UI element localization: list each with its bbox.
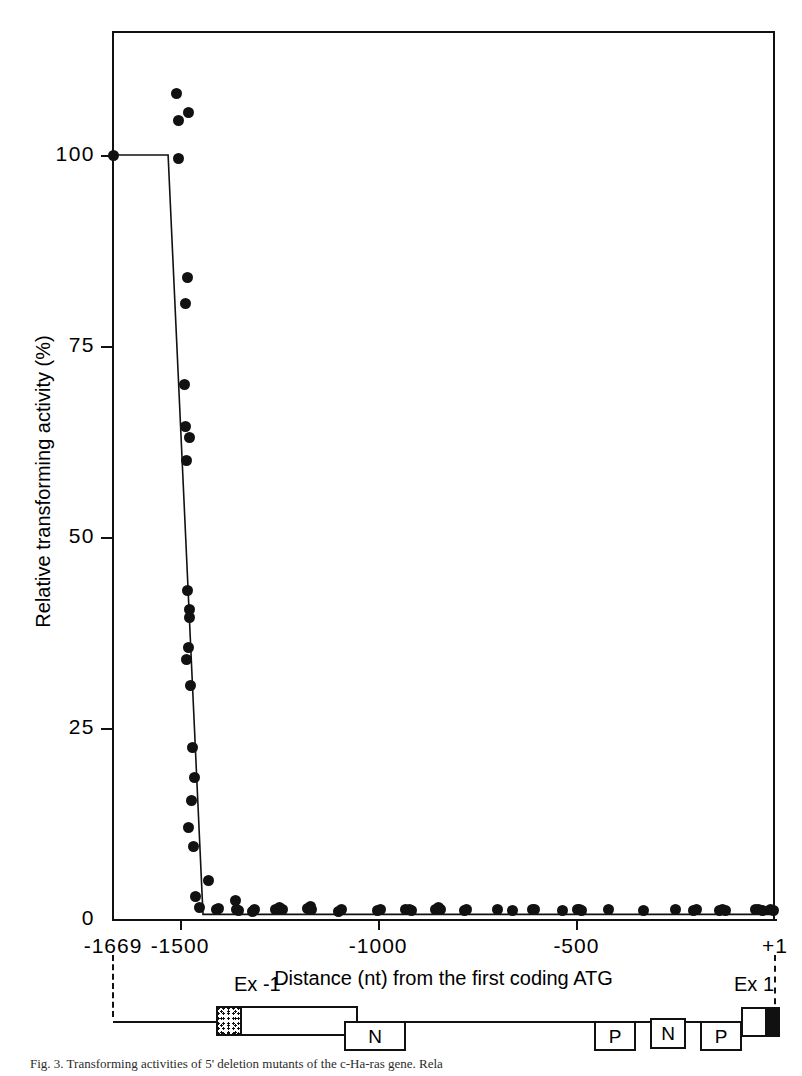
x-tick-label: +1 — [715, 934, 802, 958]
element-n-2-box: N — [650, 1018, 686, 1049]
data-point — [183, 822, 194, 833]
data-point — [181, 654, 192, 665]
data-point — [768, 905, 779, 916]
element-n-2-label: N — [661, 1024, 675, 1043]
element-p-2-box: P — [700, 1021, 742, 1051]
dashed-connector-right — [774, 955, 776, 1015]
data-point — [184, 604, 195, 615]
figure-panel: Relative transforming activity (%) Dista… — [0, 0, 802, 1076]
data-point — [173, 115, 184, 126]
x-tick-mark — [576, 920, 578, 930]
data-point — [180, 421, 191, 432]
data-point — [179, 379, 190, 390]
element-p-1-label: P — [609, 1027, 622, 1046]
element-p-2-label: P — [715, 1027, 728, 1046]
data-point — [182, 272, 193, 283]
x-axis-title: Distance (nt) from the first coding ATG — [112, 967, 775, 990]
element-n-1-label: N — [368, 1027, 382, 1046]
data-point — [108, 150, 119, 161]
exon-minus-1-label: Ex -1 — [234, 973, 281, 996]
exon-1-label: Ex 1 — [734, 973, 774, 996]
data-point — [194, 902, 205, 913]
dashed-connector-left — [112, 955, 114, 1017]
data-point — [187, 742, 198, 753]
data-point — [492, 904, 503, 915]
element-p-1-box: P — [594, 1021, 636, 1051]
y-tick-label: 25 — [0, 715, 109, 739]
x-tick-mark — [180, 920, 182, 930]
y-tick-label: 0 — [0, 906, 109, 930]
data-point — [375, 904, 386, 915]
data-point — [720, 905, 731, 916]
data-point — [189, 772, 200, 783]
exon-1-coding-block — [766, 1007, 780, 1037]
data-point — [691, 904, 702, 915]
y-tick-label: 50 — [0, 524, 109, 548]
data-point — [336, 904, 347, 915]
element-n-1-box: N — [344, 1021, 406, 1051]
x-tick-label: -1500 — [120, 934, 240, 958]
exon-1-box — [741, 1007, 767, 1037]
x-axis-line — [112, 919, 777, 921]
y-axis-title: Relative transforming activity (%) — [32, 317, 55, 647]
x-tick-label: -1000 — [318, 934, 438, 958]
data-point — [190, 891, 201, 902]
exon-minus-1-stipple-block — [216, 1006, 242, 1036]
figure-caption: Fig. 3. Transforming activities of 5' de… — [0, 1056, 802, 1072]
data-point — [184, 432, 195, 443]
data-point — [188, 841, 199, 852]
data-point — [603, 904, 614, 915]
gene-map: Ex -1 N P N P Ex 1 — [0, 995, 802, 1055]
x-tick-mark — [378, 920, 380, 930]
exon-minus-1-box — [240, 1006, 358, 1036]
y-tick-label: 75 — [0, 333, 109, 357]
plot-frame — [112, 31, 775, 920]
x-tick-label: -500 — [516, 934, 636, 958]
data-point — [406, 905, 417, 916]
gene-backbone-left — [113, 1021, 218, 1023]
y-tick-label: 100 — [0, 142, 109, 166]
